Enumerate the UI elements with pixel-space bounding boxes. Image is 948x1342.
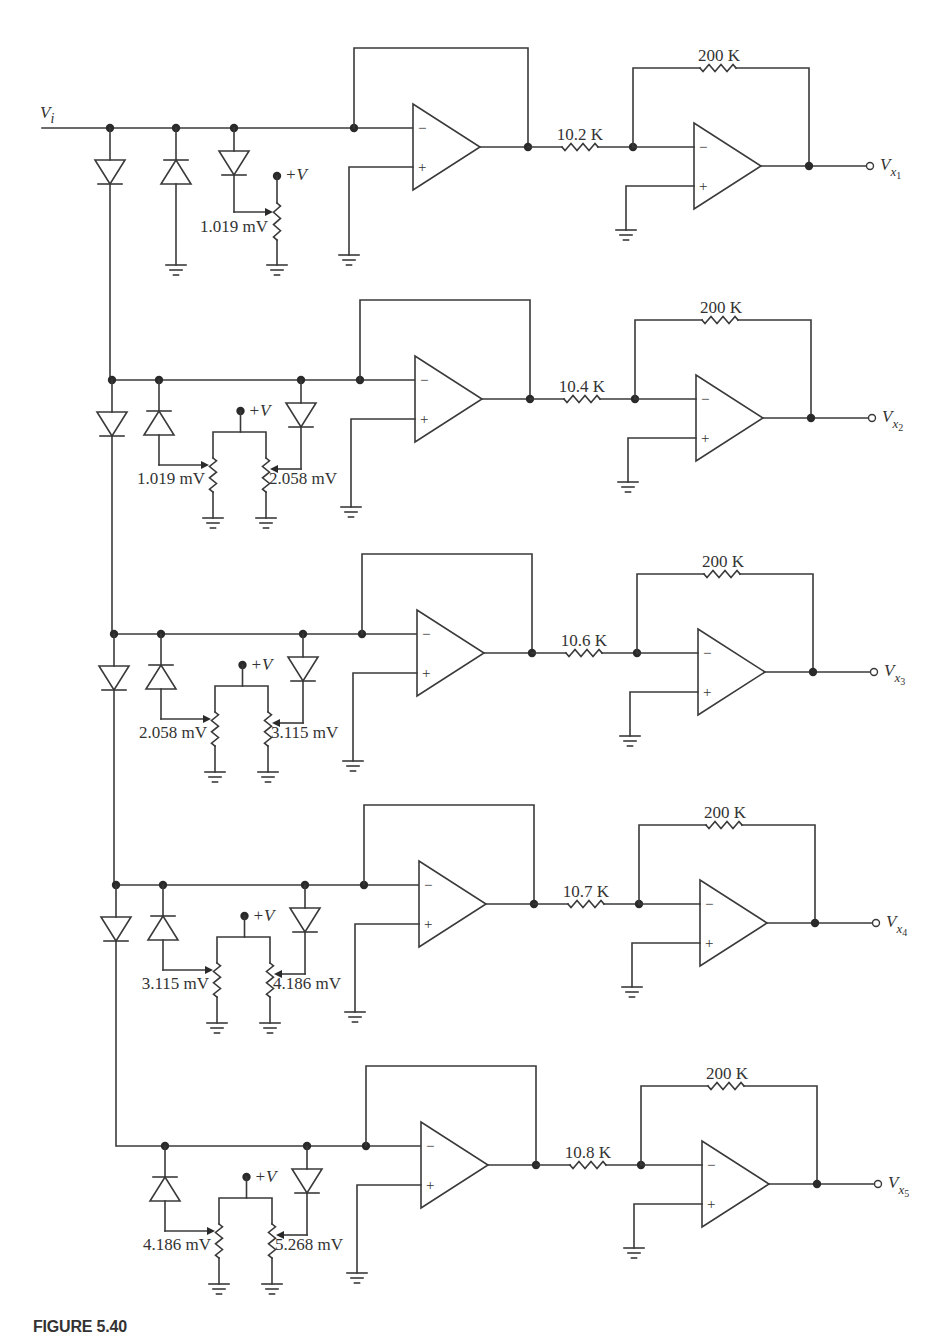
junction-node (813, 1180, 821, 1188)
wire (357, 1185, 421, 1273)
opamp-amplifier: −+ (698, 629, 765, 715)
opamp-triangle (421, 1122, 488, 1208)
minus-sign: − (424, 877, 432, 893)
junction-node (809, 668, 817, 676)
resistor-zigzag (700, 65, 736, 72)
pot-voltage-label-high: 2.058 mV (269, 469, 338, 488)
output-terminal-icon (869, 415, 876, 422)
resistor-zigzag (568, 901, 604, 908)
resistor-icon (566, 650, 602, 657)
ground-icon (624, 1248, 644, 1258)
opamp-triangle (702, 1141, 769, 1227)
feedback-resistor-label: 200 K (700, 298, 743, 317)
ground-icon (205, 772, 225, 782)
stage-3: +V2.058 mV3.115 mV−+10.6 K−+200 KVx3 (99, 552, 905, 885)
resistor-icon (570, 1162, 606, 1169)
diode-down-icon (288, 657, 318, 681)
resistor-zigzag (274, 203, 281, 240)
wire (633, 68, 700, 147)
potentiometer-icon (274, 203, 281, 240)
opamp-triangle (698, 629, 765, 715)
resistor-icon (564, 396, 600, 403)
opamp-triangle (694, 123, 761, 209)
minus-sign: − (422, 626, 430, 642)
resistor-zigzag (706, 822, 742, 829)
resistor-icon (702, 317, 738, 324)
resistor-zigzag (562, 144, 598, 151)
diode-down-icon (101, 917, 131, 941)
diode-body (99, 666, 129, 690)
resistor-icon (706, 822, 742, 829)
opamp-comparator: −+ (413, 104, 480, 190)
feedback-resistor-label: 200 K (702, 552, 745, 571)
pot-voltage-label-low: 2.058 mV (139, 723, 208, 742)
input-terminal: Vi (40, 103, 54, 126)
wiper-arrow-icon (205, 966, 213, 974)
plus-sign: + (422, 665, 430, 681)
output-label: Vx3 (884, 661, 905, 687)
resistor-icon (708, 1083, 744, 1090)
resistor-zigzag (566, 650, 602, 657)
supply-label: +V (249, 401, 273, 420)
wiper-arrow-icon (203, 715, 211, 723)
diode-down-icon (290, 908, 320, 932)
wire (738, 320, 811, 418)
diode-down-icon (286, 403, 316, 427)
wire (744, 1086, 817, 1184)
wire (215, 686, 268, 712)
opamp-triangle (419, 861, 486, 947)
ground-icon (618, 482, 638, 492)
output-label: Vx5 (888, 1173, 909, 1199)
opamp-comparator: −+ (415, 356, 482, 442)
diode-body (219, 151, 249, 175)
resistor-icon (704, 571, 740, 578)
potentiometer-icon (212, 712, 219, 746)
supply-label: +V (251, 655, 275, 674)
input-label: Vi (40, 103, 54, 126)
input-resistor-label: 10.8 K (565, 1143, 612, 1162)
plus-sign: + (703, 684, 711, 700)
diode-body (144, 411, 174, 435)
stage-5: +V4.186 mV5.268 mV−+10.8 K−+200 KVx5 (117, 1064, 909, 1294)
resistor-zigzag (702, 317, 738, 324)
wire (630, 692, 698, 736)
plus-sign: + (699, 178, 707, 194)
diode-body (148, 916, 178, 940)
opamp-triangle (696, 375, 763, 461)
opamp-amplifier: −+ (700, 880, 767, 966)
pot-voltage-label: 1.019 mV (200, 217, 269, 236)
output-terminal-icon (875, 1181, 882, 1188)
output-terminal-icon (871, 669, 878, 676)
ground-icon (203, 518, 223, 528)
opamp-triangle (415, 356, 482, 442)
diode-body (290, 908, 320, 932)
wiper-arrow-icon (265, 208, 273, 216)
supply-label: +V (255, 1167, 279, 1186)
minus-sign: − (420, 372, 428, 388)
feedback-resistor-label: 200 K (704, 803, 747, 822)
opamp-triangle (700, 880, 767, 966)
ground-icon (256, 518, 276, 528)
input-resistor-label: 10.7 K (563, 882, 610, 901)
ground-icon (616, 230, 636, 240)
pot-voltage-label-high: 3.115 mV (271, 723, 339, 742)
pot-voltage-label-low: 4.186 mV (143, 1235, 212, 1254)
wire (628, 438, 696, 482)
diode-body (161, 160, 191, 184)
ground-icon (262, 1284, 282, 1294)
opamp-amplifier: −+ (696, 375, 763, 461)
diode-body (286, 403, 316, 427)
ground-icon (347, 1273, 367, 1283)
ground-icon (341, 507, 361, 517)
wire (219, 1198, 272, 1224)
wiper-arrow-icon (207, 1227, 215, 1235)
ground-icon (166, 265, 186, 275)
diode-body (292, 1169, 322, 1193)
diode-down-icon (99, 666, 129, 690)
wire (641, 1086, 708, 1165)
diode-body (146, 665, 176, 689)
wire (213, 432, 266, 458)
plus-sign: + (418, 159, 426, 175)
figure-caption: FIGURE 5.40 (33, 1318, 127, 1336)
wire (353, 673, 417, 761)
